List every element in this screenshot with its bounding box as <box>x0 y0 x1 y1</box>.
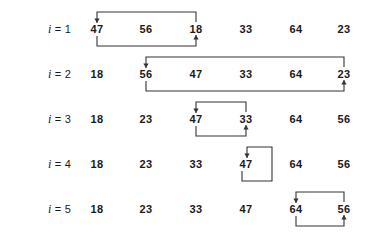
value-cell: 18 <box>91 113 104 125</box>
value-cell: 18 <box>91 203 104 215</box>
row-label-value: 5 <box>65 203 72 215</box>
row-label-separator: = <box>55 158 62 170</box>
arrowhead-up-icon <box>243 125 248 130</box>
row-label-i-3: i=3 <box>48 112 71 127</box>
value-cell: 18 <box>190 23 203 35</box>
row-label-i-1: i=1 <box>48 22 71 37</box>
row-label-variable: i <box>48 22 52 36</box>
row-label-separator: = <box>55 23 62 35</box>
value-cell: 56 <box>140 68 153 80</box>
value-cell: 56 <box>338 113 351 125</box>
arrowhead-up-icon <box>193 35 198 40</box>
value-cell: 33 <box>190 203 203 215</box>
row-label-i-2: i=2 <box>48 67 71 82</box>
row-label-separator: = <box>55 113 62 125</box>
value-cell: 47 <box>190 68 203 80</box>
value-cell: 23 <box>140 203 153 215</box>
arrowhead-up-icon <box>341 80 346 85</box>
value-cell: 64 <box>290 23 303 35</box>
value-cell: 64 <box>290 158 303 170</box>
row-label-value: 4 <box>65 158 72 170</box>
selection-sort-trace-diagram: i=1475618336423i=2185647336423i=31823473… <box>0 0 367 233</box>
row-label-variable: i <box>48 202 52 216</box>
row-label-value: 3 <box>65 113 72 125</box>
row-label-i-5: i=5 <box>48 202 71 217</box>
value-cell: 33 <box>190 158 203 170</box>
value-cell: 56 <box>338 203 351 215</box>
value-cell: 23 <box>140 158 153 170</box>
arrowhead-up-icon <box>341 215 346 220</box>
row-label-variable: i <box>48 157 52 171</box>
value-cell: 33 <box>240 113 253 125</box>
value-cell: 18 <box>91 158 104 170</box>
row-label-value: 2 <box>65 68 72 80</box>
value-cell: 47 <box>240 158 253 170</box>
value-cell: 47 <box>240 203 253 215</box>
value-cell: 64 <box>290 113 303 125</box>
value-cell: 64 <box>290 203 303 215</box>
value-cell: 47 <box>91 23 104 35</box>
row-label-separator: = <box>55 68 62 80</box>
value-cell: 33 <box>240 23 253 35</box>
value-cell: 33 <box>240 68 253 80</box>
value-cell: 56 <box>338 158 351 170</box>
value-cell: 23 <box>140 113 153 125</box>
value-cell: 64 <box>290 68 303 80</box>
value-cell: 47 <box>190 113 203 125</box>
row-label-variable: i <box>48 112 52 126</box>
value-cell: 56 <box>140 23 153 35</box>
row-label-separator: = <box>55 203 62 215</box>
row-label-i-4: i=4 <box>48 157 71 172</box>
value-cell: 23 <box>338 68 351 80</box>
row-label-value: 1 <box>65 23 72 35</box>
value-cell: 18 <box>91 68 104 80</box>
value-cell: 23 <box>338 23 351 35</box>
row-label-variable: i <box>48 67 52 81</box>
